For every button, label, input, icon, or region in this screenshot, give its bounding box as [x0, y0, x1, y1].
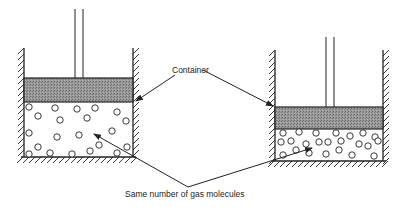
wall-hatch — [133, 144, 139, 150]
piston — [24, 78, 133, 102]
wall-hatch — [269, 140, 275, 146]
gas-molecule — [84, 115, 90, 121]
wall-hatch — [18, 108, 24, 114]
wall-hatch — [133, 150, 139, 156]
wall-hatch — [133, 90, 139, 96]
gas-molecule — [323, 151, 329, 157]
floor-hatch — [364, 161, 370, 167]
gas-molecule — [124, 144, 130, 150]
wall-hatch — [133, 132, 139, 138]
wall-hatch — [133, 54, 139, 60]
floor-hatch — [53, 157, 59, 163]
gas-molecule — [325, 139, 331, 145]
arrow-molecules-right — [188, 148, 312, 187]
gas-molecule — [26, 130, 32, 136]
wall-hatch — [133, 72, 139, 78]
floor-hatch — [125, 157, 131, 163]
gas-molecule — [109, 128, 115, 134]
wall-hatch — [383, 134, 389, 140]
floor-hatch — [334, 161, 340, 167]
gas-compression-diagram: Container Same number of gas molecules — [0, 0, 407, 210]
arrow-molecules-left — [94, 134, 188, 187]
gas-molecule — [69, 151, 75, 157]
arrow-container-left — [136, 75, 175, 101]
wall-hatch — [269, 116, 275, 122]
gas-molecule — [76, 132, 82, 138]
wall-hatch — [269, 152, 275, 158]
wall-hatch — [269, 80, 275, 86]
floor-hatch — [370, 161, 376, 167]
floor-hatch — [286, 161, 292, 167]
gas-molecule — [74, 106, 80, 112]
floor-hatch — [310, 161, 316, 167]
wall-hatch — [383, 104, 389, 110]
wall-hatch — [18, 60, 24, 66]
gas-molecule — [123, 118, 129, 124]
wall-hatch — [269, 128, 275, 134]
wall-hatch — [18, 54, 24, 60]
gas-molecule — [303, 141, 309, 147]
floor-hatch — [83, 157, 89, 163]
gas-molecule — [360, 130, 366, 136]
container-label: Container — [172, 65, 209, 75]
wall-hatch — [269, 50, 275, 56]
wall-hatch — [383, 56, 389, 62]
floor-hatch — [358, 161, 364, 167]
floor-hatch — [328, 161, 334, 167]
gas-molecule — [316, 139, 322, 145]
floor-hatch — [29, 157, 35, 163]
gas-molecule — [96, 142, 102, 148]
floor-hatch — [71, 157, 77, 163]
floor-hatch — [107, 157, 113, 163]
wall-hatch — [383, 152, 389, 158]
wall-hatch — [18, 114, 24, 120]
arrow-container-right — [203, 70, 273, 106]
wall-hatch — [383, 74, 389, 80]
wall-hatch — [383, 128, 389, 134]
wall-hatch — [383, 62, 389, 68]
gas-molecule — [371, 153, 377, 159]
wall-hatch — [133, 120, 139, 126]
wall-hatch — [269, 56, 275, 62]
gas-molecule — [365, 143, 371, 149]
wall-hatch — [133, 78, 139, 84]
floor-hatch — [65, 157, 71, 163]
wall-hatch — [18, 150, 24, 156]
wall-hatch — [18, 132, 24, 138]
gas-molecule — [280, 130, 286, 136]
gas-molecule — [54, 134, 60, 140]
wall-hatch — [18, 66, 24, 72]
gas-molecule — [296, 129, 302, 135]
gas-molecule — [278, 139, 284, 145]
wall-hatch — [18, 144, 24, 150]
wall-hatch — [269, 62, 275, 68]
floor-hatch — [352, 161, 358, 167]
wall-hatch — [269, 122, 275, 128]
wall-hatch — [18, 120, 24, 126]
wall-hatch — [133, 126, 139, 132]
wall-hatch — [383, 116, 389, 122]
left-cylinder — [17, 9, 139, 163]
floor-hatch — [41, 157, 47, 163]
floor-hatch — [113, 157, 119, 163]
gas-molecule — [336, 147, 342, 153]
floor-hatch — [77, 157, 83, 163]
wall-hatch — [269, 98, 275, 104]
floor-hatch — [322, 161, 328, 167]
wall-hatch — [18, 138, 24, 144]
gas-molecule — [26, 104, 32, 110]
wall-hatch — [18, 72, 24, 78]
wall-hatch — [383, 68, 389, 74]
wall-hatch — [383, 140, 389, 146]
floor-hatch — [340, 161, 346, 167]
gas-molecule — [338, 138, 344, 144]
wall-hatch — [133, 60, 139, 66]
wall-hatch — [269, 146, 275, 152]
floor-hatch — [101, 157, 107, 163]
gas-molecule — [288, 138, 294, 144]
wall-hatch — [383, 80, 389, 86]
wall-hatch — [383, 98, 389, 104]
floor-hatch — [35, 157, 41, 163]
gas-molecule — [114, 109, 120, 115]
wall-hatch — [18, 84, 24, 90]
